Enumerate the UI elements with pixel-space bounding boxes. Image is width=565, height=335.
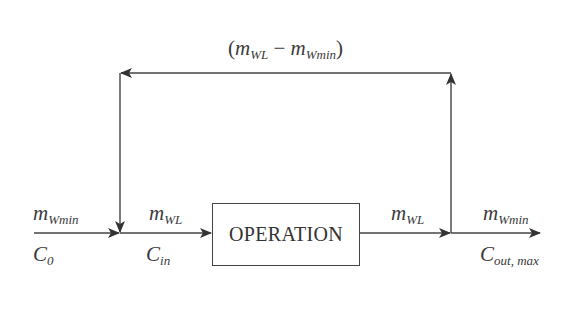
recycle-flow-label: (mWL − mWmin) (228, 38, 343, 61)
inlet-flow-label: mWmin (33, 203, 79, 226)
operation-box: OPERATION (212, 203, 360, 266)
process-outlet-flow-label: mWL (391, 203, 424, 226)
final-outlet-flow-label: mWmin (483, 203, 529, 226)
final-outlet-concentration-label: Cout, max (480, 244, 539, 267)
operation-label: OPERATION (229, 223, 343, 246)
mixed-inlet-flow-label: mWL (149, 203, 182, 226)
water-reuse-diagram: (mWL − mWmin) OPERATION mWmin C0 mWL Cin… (0, 0, 565, 335)
mixed-inlet-concentration-label: Cin (146, 244, 170, 267)
inlet-concentration-label: C0 (33, 244, 54, 267)
